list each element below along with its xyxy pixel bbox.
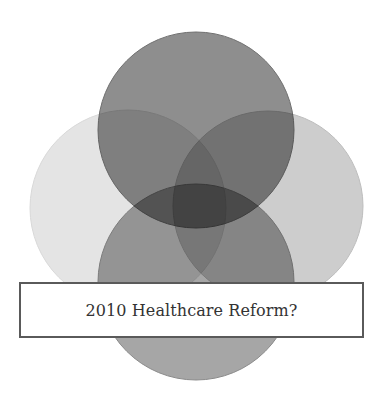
caption-text: 2010 Healthcare Reform? — [85, 301, 297, 320]
venn-diagram — [0, 0, 386, 400]
caption-box: 2010 Healthcare Reform? — [19, 282, 364, 338]
